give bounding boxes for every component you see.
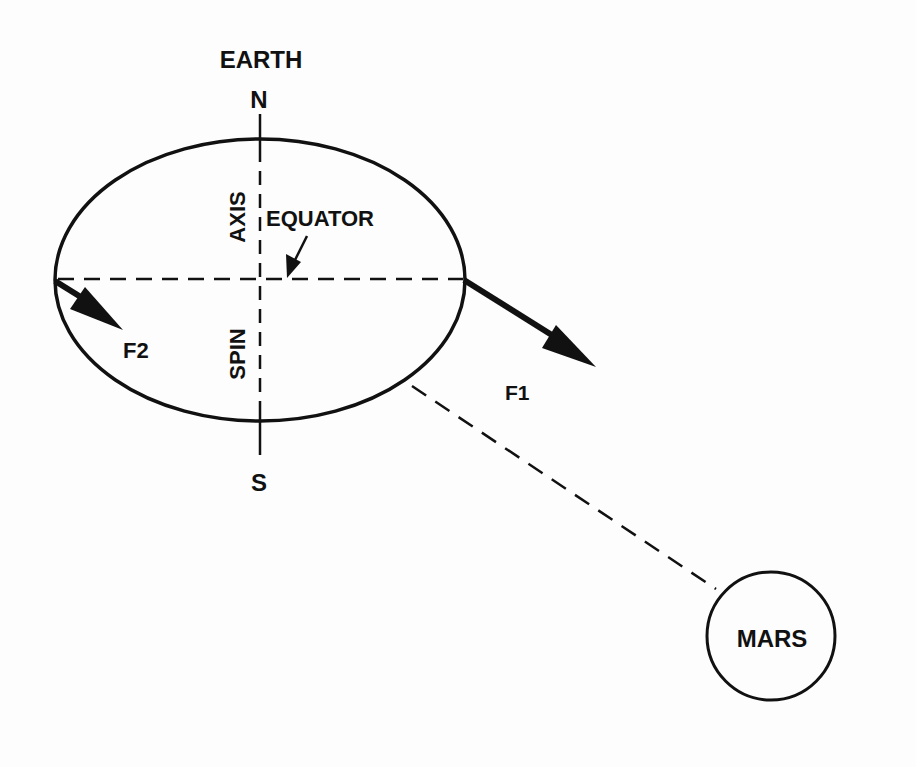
earth-mars-force-diagram: EARTH N S AXIS SPIN EQUATOR F1 F2 MARS	[0, 0, 916, 767]
f1-arrow-shaft	[464, 280, 555, 337]
earth-mars-line	[412, 386, 716, 589]
axis-label: AXIS	[225, 191, 250, 242]
diagram-canvas: EARTH N S AXIS SPIN EQUATOR F1 F2 MARS	[0, 0, 916, 767]
mars-label: MARS	[737, 625, 808, 652]
north-label: N	[250, 86, 267, 113]
f1-label: F1	[505, 381, 530, 404]
south-label: S	[251, 469, 267, 496]
equator-pointer-shaft	[294, 236, 307, 262]
equator-label: EQUATOR	[266, 206, 374, 231]
equator-pointer-head	[286, 254, 301, 278]
earth-label: EARTH	[220, 46, 303, 73]
f2-label: F2	[123, 338, 149, 363]
spin-label: SPIN	[225, 328, 250, 379]
